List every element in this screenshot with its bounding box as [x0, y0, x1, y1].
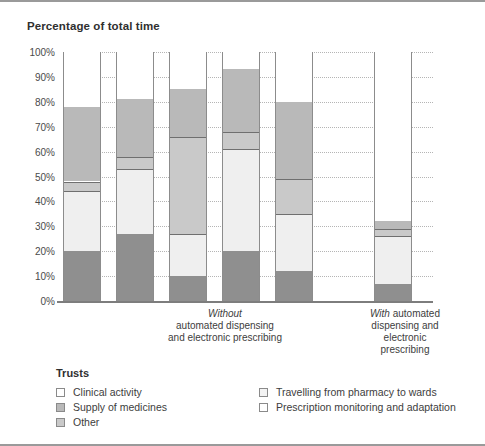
stacked-bar[interactable] — [222, 52, 260, 301]
y-axis-tick-label: 60% — [35, 146, 55, 157]
bar-segment-supply[interactable] — [375, 221, 411, 228]
bar-segment-supply[interactable] — [276, 102, 312, 179]
group-label-with-line2: dispensing and — [371, 320, 438, 331]
bar-segment-prescription[interactable] — [276, 271, 312, 301]
stacked-bar[interactable] — [374, 52, 412, 301]
legend-item-label: Clinical activity — [73, 386, 142, 398]
stacked-bar[interactable] — [275, 52, 313, 301]
group-label-with: With automated dispensing and electronic… — [357, 308, 453, 356]
bar-segment-clinical[interactable] — [276, 52, 312, 102]
y-axis-tick-label: 50% — [35, 171, 55, 182]
legend-swatch-clinical-icon — [56, 388, 65, 397]
y-axis-tick-label: 100% — [29, 47, 55, 58]
group-label-with-line3: electronic — [384, 332, 427, 343]
y-axis-tick-label: 10% — [35, 271, 55, 282]
y-axis-tick-label: 90% — [35, 71, 55, 82]
group-label-with-line1b: automated — [390, 308, 440, 319]
bar-segment-clinical[interactable] — [375, 52, 411, 221]
y-axis-tick-label: 0% — [41, 296, 55, 307]
bar-segment-supply[interactable] — [117, 99, 153, 156]
bar-segment-travel[interactable] — [117, 169, 153, 234]
page-title: Percentage of total time — [27, 20, 160, 32]
legend-item-travel[interactable]: Travelling from pharmacy to wards — [259, 386, 437, 398]
y-axis-tick-label: 40% — [35, 196, 55, 207]
legend-item-prescription[interactable]: Prescription monitoring and adaptation — [259, 401, 456, 413]
y-axis-tick-label: 30% — [35, 221, 55, 232]
legend-item-label: Prescription monitoring and adaptation — [276, 401, 456, 413]
bar-segment-travel[interactable] — [223, 149, 259, 251]
group-label-without: Without automated dispensing and electro… — [120, 308, 330, 344]
legend-item-label: Travelling from pharmacy to wards — [276, 386, 437, 398]
legend-swatch-other-icon — [56, 418, 65, 427]
group-label-without-line2: automated dispensing — [176, 320, 274, 331]
bar-segment-other[interactable] — [276, 179, 312, 214]
group-label-without-line1: Without — [208, 308, 242, 319]
stacked-bar[interactable] — [63, 52, 101, 301]
bar-segment-travel[interactable] — [276, 214, 312, 271]
stacked-bar[interactable] — [169, 52, 207, 301]
bar-segment-other[interactable] — [64, 182, 100, 192]
y-axis-tick-label: 70% — [35, 121, 55, 132]
legend-swatch-prescription-icon — [259, 403, 268, 412]
bar-segment-prescription[interactable] — [375, 284, 411, 301]
legend-title: Trusts — [56, 367, 456, 379]
chart-page: Percentage of total time 100%90%80%70%60… — [0, 0, 485, 446]
bar-segment-travel[interactable] — [170, 234, 206, 276]
bar-segment-prescription[interactable] — [170, 276, 206, 301]
group-label-with-line4: prescribing — [381, 344, 430, 355]
bar-segment-supply[interactable] — [170, 89, 206, 136]
bar-segment-supply[interactable] — [223, 69, 259, 131]
legend-item-clinical[interactable]: Clinical activity — [56, 386, 142, 398]
bar-segment-travel[interactable] — [375, 236, 411, 283]
y-axis-tick-label: 80% — [35, 96, 55, 107]
legend-item-supply[interactable]: Supply of medicines — [56, 401, 167, 413]
plot-area: 100%90%80%70%60%50%40%30%20%10%0% — [63, 52, 433, 301]
bar-segment-other[interactable] — [375, 229, 411, 236]
legend-swatch-supply-icon — [56, 403, 65, 412]
bar-segment-supply[interactable] — [64, 107, 100, 182]
bar-segment-clinical[interactable] — [170, 52, 206, 89]
legend-swatch-travel-icon — [259, 388, 268, 397]
y-axis-tick-label: 20% — [35, 246, 55, 257]
bar-segment-clinical[interactable] — [117, 52, 153, 99]
bar-segment-prescription[interactable] — [117, 234, 153, 301]
group-label-without-line3: and electronic prescribing — [168, 332, 282, 343]
legend-item-label: Other — [73, 416, 99, 428]
bar-segment-clinical[interactable] — [64, 52, 100, 107]
bar-segment-other[interactable] — [170, 137, 206, 234]
bar-segment-other[interactable] — [117, 157, 153, 169]
stacked-bar[interactable] — [116, 52, 154, 301]
bar-segment-clinical[interactable] — [223, 52, 259, 69]
legend-item-other[interactable]: Other — [56, 416, 99, 428]
legend: Trusts Clinical activitySupply of medici… — [56, 367, 456, 436]
bar-segment-prescription[interactable] — [223, 251, 259, 301]
legend-items: Clinical activitySupply of medicinesOthe… — [56, 386, 456, 436]
group-label-with-line1: With — [370, 308, 390, 319]
bar-segment-prescription[interactable] — [64, 251, 100, 301]
bar-segment-travel[interactable] — [64, 191, 100, 251]
bar-segment-other[interactable] — [223, 132, 259, 149]
legend-item-label: Supply of medicines — [73, 401, 167, 413]
x-axis-baseline — [57, 301, 433, 303]
